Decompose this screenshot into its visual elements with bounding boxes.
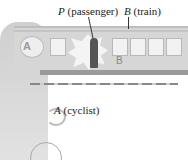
helmet-letter: A [23,40,31,52]
train-stripe [14,30,188,32]
passenger-label: P (passenger) [58,5,118,17]
train-window [112,38,128,56]
bicycle-wheel [30,142,62,160]
train-window [50,38,66,56]
train-window [166,38,182,56]
train-window [130,38,146,56]
train-label: B (train) [124,5,161,17]
train-side-letter: B [116,55,123,66]
passenger-figure [90,38,98,68]
cyclist-helmet: A [20,36,44,58]
cyclist-label: A (cyclist) [54,104,100,116]
train-undercarriage [40,70,188,75]
rail-track [30,83,178,85]
train-leader-line [128,17,129,29]
train-window [148,38,164,56]
